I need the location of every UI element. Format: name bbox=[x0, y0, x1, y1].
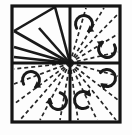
rotation-field-diagram bbox=[0, 0, 132, 135]
figure-container bbox=[0, 0, 132, 135]
